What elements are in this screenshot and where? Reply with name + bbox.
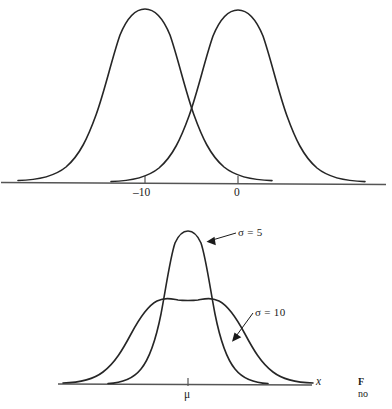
figure-drawing	[0, 0, 392, 409]
top-tick-label-minus10: –10	[133, 187, 150, 199]
bottom-tick-label-mu: μ	[184, 389, 190, 401]
annotation-label-sigma-5: σ = 5	[238, 227, 263, 238]
figure-caption: F no	[358, 376, 392, 399]
figure-root: –10 0 σ = 5 σ = 10 μ x F no	[0, 0, 392, 409]
sigma-5-leader	[207, 233, 237, 245]
top-curve-mean-zero	[111, 10, 365, 182]
top-curve-mean-minus10	[18, 9, 272, 181]
figure-caption-line-2: no	[358, 388, 392, 400]
top-axis-line	[1, 183, 386, 185]
annotation-label-sigma-10: σ = 10	[255, 307, 285, 318]
top-tick-label-zero: 0	[234, 187, 240, 199]
bottom-axis-line	[58, 384, 312, 385]
figure-caption-line-1: F	[358, 376, 392, 388]
bottom-curve-sigma-5	[108, 231, 268, 384]
top-panel	[1, 9, 386, 185]
bottom-axis-label-x: x	[316, 376, 321, 388]
